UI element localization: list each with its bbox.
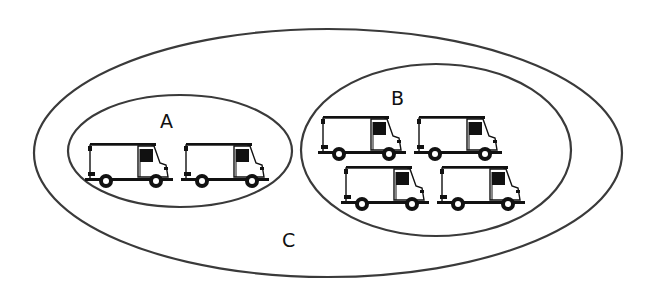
delivery-van-icon [318, 116, 406, 161]
delivery-van-icon [341, 166, 429, 211]
set-b-label: B [391, 87, 404, 109]
venn-diagram: CAB [0, 0, 655, 303]
delivery-van-icon [437, 166, 525, 211]
set-c-label: C [282, 229, 295, 251]
delivery-van-icon [414, 116, 502, 161]
set-a-label: A [160, 110, 173, 132]
delivery-van-icon [85, 143, 173, 188]
delivery-van-icon [181, 143, 269, 188]
